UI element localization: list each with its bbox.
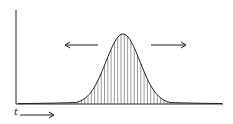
time-axis-label: t [14,106,18,117]
left-arrow-icon [65,42,98,48]
time-arrow-icon [20,112,54,118]
bell-curve [18,34,222,104]
right-arrow-icon [151,42,186,48]
bell-curve-diagram [0,0,233,124]
